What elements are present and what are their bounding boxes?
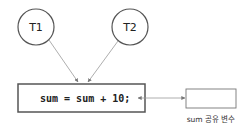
thread-label-t1: T1	[28, 21, 43, 34]
shared-variable-box	[186, 89, 236, 108]
arrow-t1-to-code	[49, 40, 78, 82]
code-statement: sum = sum + 10;	[40, 93, 130, 104]
code-box: sum = sum + 10;	[18, 84, 145, 112]
shared-variable-label: sum 공유 변수	[187, 115, 236, 124]
shared-variable: sum 공유 변수	[186, 89, 236, 124]
thread-node-t1: T1	[18, 9, 54, 45]
thread-label-t2: T2	[122, 21, 137, 34]
arrow-t2-to-code	[88, 41, 118, 82]
thread-node-t2: T2	[112, 9, 148, 45]
thread-shared-variable-diagram: T1 T2 sum = sum + 10; sum 공유 변수	[0, 0, 249, 130]
